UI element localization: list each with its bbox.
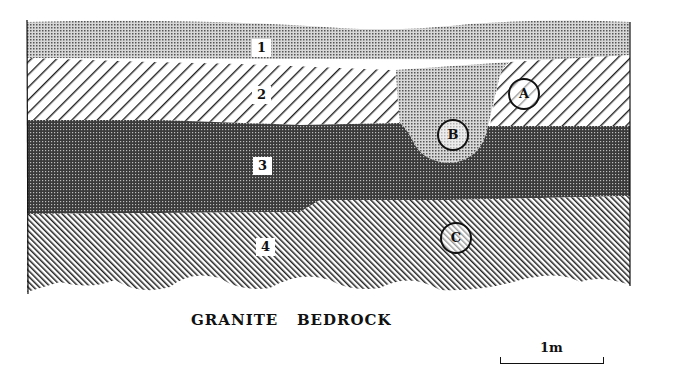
marker-b: B	[437, 119, 469, 151]
scale-bar	[500, 357, 604, 364]
marker-c: C	[440, 222, 472, 254]
bedrock-label: GRANITE BEDROCK	[191, 311, 392, 329]
layer-label-2: 2	[252, 86, 271, 104]
layer-label-4: 4	[256, 238, 275, 256]
layer-label-1: 1	[252, 39, 271, 57]
layer-1	[27, 20, 630, 60]
layer-label-3: 3	[253, 157, 272, 175]
marker-a: A	[508, 78, 540, 110]
scale-label: 1m	[540, 340, 563, 355]
layer-2	[27, 58, 400, 125]
